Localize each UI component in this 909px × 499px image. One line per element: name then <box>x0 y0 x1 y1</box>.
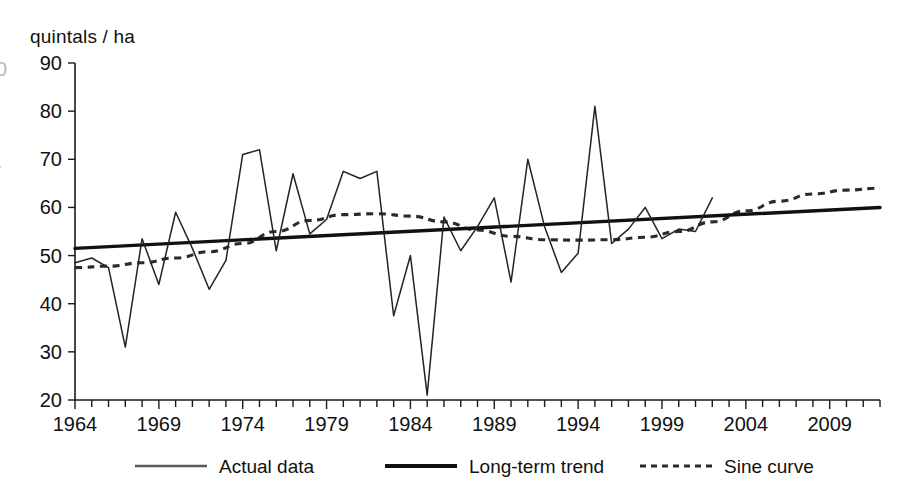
x-axis-tick-label: 1989 <box>472 413 517 435</box>
x-axis-tick-label: 1999 <box>640 413 685 435</box>
legend: Actual dataLong-term trendSine curve <box>135 456 814 477</box>
series-line-actual-data <box>75 106 712 395</box>
y-axis-tick-label: 80 <box>40 100 62 122</box>
x-axis-tick-label: 2004 <box>724 413 769 435</box>
x-axis-tick-label: 1979 <box>304 413 349 435</box>
x-axis-tick-label: 1969 <box>137 413 182 435</box>
x-axis-tick-label: 1994 <box>556 413 601 435</box>
y-axis-tick-label: 40 <box>40 293 62 315</box>
y-axis-tick-group: 2030405060708090 <box>40 52 75 411</box>
x-axis-tick-label: 1974 <box>220 413 265 435</box>
y-axis-tick-label: 90 <box>40 52 62 74</box>
y-axis-tick-label: 60 <box>40 196 62 218</box>
legend-label: Long-term trend <box>469 456 604 477</box>
y-axis-tick-label: 50 <box>40 245 62 267</box>
legend-label: Sine curve <box>724 456 814 477</box>
y-axis-tick-label: 20 <box>40 389 62 411</box>
x-axis-tick-label: 1964 <box>53 413 98 435</box>
y-axis-tick-label: 30 <box>40 341 62 363</box>
legend-label: Actual data <box>219 456 314 477</box>
chart-container: quintals / ha 0 . 2030405060708090 19641… <box>0 0 909 499</box>
x-axis-tick-label: 1984 <box>388 413 433 435</box>
x-axis-tick-group: 1964196919741979198419891994199920042009 <box>53 400 880 435</box>
y-axis-tick-label: 70 <box>40 148 62 170</box>
chart-svg: 2030405060708090 19641969197419791984198… <box>0 0 909 499</box>
x-axis-tick-label: 2009 <box>807 413 852 435</box>
